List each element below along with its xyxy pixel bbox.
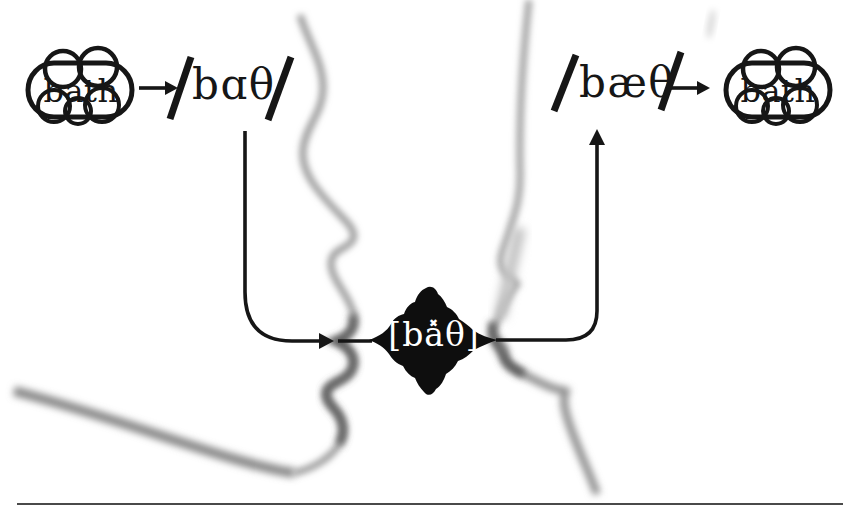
speaker-shoulder-shadow — [14, 391, 294, 473]
speaker-face-profile — [294, 15, 355, 473]
phoneme-to-mouth-arrow-line — [245, 131, 319, 341]
phonetics-figure-canvas: bath bɑθ [ba̽θ] bæθ bath — [0, 0, 854, 515]
phoneme-slash — [554, 55, 576, 111]
arrow-right-head-icon — [697, 81, 710, 95]
arrow-right-head-icon — [319, 333, 334, 349]
scan-speck — [705, 9, 717, 40]
speaker-thought-word: bath — [25, 75, 137, 107]
hearer-phonemic-form: bæθ — [579, 62, 665, 104]
arrow-up-head-icon — [589, 129, 605, 145]
speaker-phonemic-form: bɑθ — [192, 64, 274, 106]
hearer-thought-word: bath — [721, 75, 835, 107]
speaker-lips-chin-shadow — [326, 315, 353, 444]
acoustic-phonetic-form: [ba̽θ] — [386, 318, 482, 351]
